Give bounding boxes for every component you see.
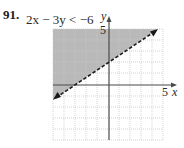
x-tick-label: 5 xyxy=(162,85,168,99)
inequality-graph: y 5 5 x xyxy=(0,0,184,148)
y-tick-label: 5 xyxy=(100,23,106,37)
y-axis-arrow-icon xyxy=(107,16,112,22)
y-axis-label: y xyxy=(100,9,107,23)
x-axis-label: x xyxy=(171,85,178,99)
